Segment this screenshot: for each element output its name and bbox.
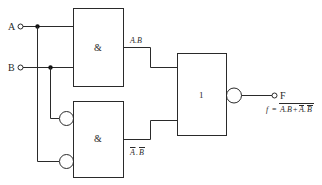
and-gate-bottom-output-label: A . B	[129, 148, 145, 158]
svg-text:.: .	[136, 148, 138, 157]
wire-top-gate-output	[124, 48, 178, 68]
and-gate-top-symbol: &	[94, 42, 102, 53]
svg-text:=: =	[272, 105, 277, 114]
svg-text:B: B	[139, 148, 144, 157]
svg-text:A: A	[129, 148, 135, 157]
and-gate-top-output-label: A.B	[129, 36, 142, 45]
inversion-bubble-b-icon	[60, 112, 74, 126]
svg-text:+: +	[293, 105, 298, 114]
output-terminal-icon	[272, 93, 277, 98]
and-gate-bottom-symbol: &	[94, 133, 102, 144]
input-a-terminal-icon	[18, 24, 23, 29]
inversion-bubble-a-icon	[60, 155, 74, 169]
wire-b-to-bottom-gate	[51, 68, 60, 119]
input-b-terminal-icon	[18, 65, 23, 70]
input-a-label: A	[8, 21, 16, 32]
logic-circuit-diagram: A B & A.B & A . B 1 F f = A.B + A . B	[0, 0, 322, 185]
or-gate-symbol: 1	[199, 90, 204, 100]
input-b-label: B	[8, 62, 15, 73]
output-f-label: F	[280, 90, 286, 101]
svg-text:A.B: A.B	[279, 105, 292, 114]
svg-text:B: B	[307, 105, 312, 114]
svg-text:.: .	[304, 105, 306, 114]
svg-text:f: f	[266, 105, 270, 114]
wire-bottom-gate-output	[124, 121, 178, 140]
output-inversion-bubble-icon	[227, 88, 242, 103]
wire-a-to-bottom-gate	[38, 27, 60, 162]
output-formula: f = A.B + A . B	[266, 104, 314, 115]
